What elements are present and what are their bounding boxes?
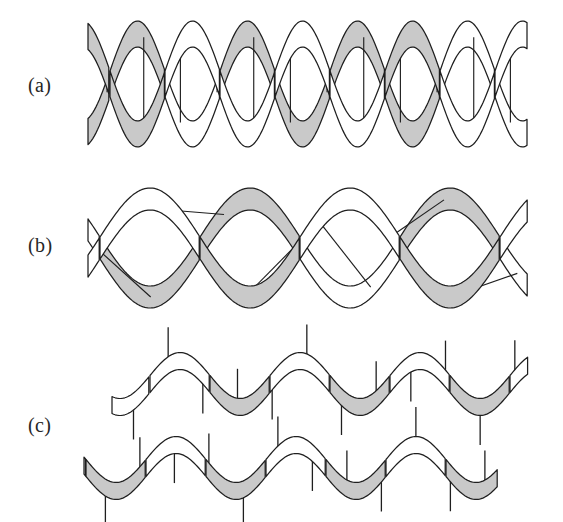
lower-strand-segment [86, 460, 145, 500]
lower-strand [84, 437, 497, 500]
upper-strand-segment [210, 376, 269, 416]
helix-strand-back-segment [275, 71, 329, 147]
upper-strand-segment [150, 353, 209, 393]
helix-strand-back-segment [200, 188, 299, 259]
helix-strand-front-segment [440, 71, 494, 147]
lower-strand-segment [206, 460, 265, 500]
dna-tight-helix-svg [0, 0, 563, 170]
helix-strand-back-segment [165, 71, 219, 147]
lower-strand-segment [446, 460, 497, 500]
lower-strand-segment [326, 460, 385, 500]
lower-strand-segment [386, 437, 445, 477]
helix-strand-back-segment [300, 237, 399, 308]
panel-c: (c) [0, 335, 563, 522]
helix-strand-back-segment [110, 21, 164, 97]
upper-strand-segment [510, 357, 528, 392]
lower-strand-segment [84, 457, 86, 476]
helix-strand-back-segment [385, 71, 439, 147]
helix-strand-back-segment [330, 21, 384, 97]
helix-strand-back-segment [100, 237, 199, 308]
upper-strand-segment [270, 353, 329, 393]
upper-strand [112, 353, 528, 416]
upper-strand-segment [450, 376, 509, 416]
helix-strand-back-segment [220, 21, 274, 97]
upper-strand-segment [112, 377, 149, 416]
panel-b-artwork [0, 170, 563, 335]
helix-strand-front-segment [220, 71, 274, 147]
helix-strand-front-segment [275, 21, 329, 97]
helix-strand-front-segment [165, 21, 219, 97]
helix-strand-front-segment [400, 237, 499, 308]
dna-separated-strands-svg [0, 335, 563, 522]
helix-strand-back-segment [400, 188, 499, 259]
helix-strand-front-segment [200, 237, 299, 308]
upper-strand-segment [390, 353, 449, 393]
lower-strand-segment [266, 437, 325, 477]
helix-strand-front-segment [88, 23, 109, 93]
lower-strand-segment [146, 437, 205, 477]
panel-a: (a) [0, 0, 563, 170]
upper-strand-segment [330, 376, 389, 416]
helix-strand-front-segment [100, 188, 199, 259]
helix-strand-front-segment [385, 21, 439, 97]
helix-strand-front-segment [110, 71, 164, 147]
lower-strand-base-ticks [105, 407, 485, 522]
figure-root: (a) (b) (c) [0, 0, 563, 522]
panel-c-artwork [0, 335, 563, 522]
helix-strand-front-segment [500, 200, 527, 259]
helix-strand-back-segment [440, 21, 494, 97]
panel-b: (b) [0, 170, 563, 335]
dna-stretched-helix-svg [0, 170, 563, 335]
helix-strand-front-segment [330, 71, 384, 147]
helix-strand-front-segment [300, 188, 399, 259]
panel-a-artwork [0, 0, 563, 170]
